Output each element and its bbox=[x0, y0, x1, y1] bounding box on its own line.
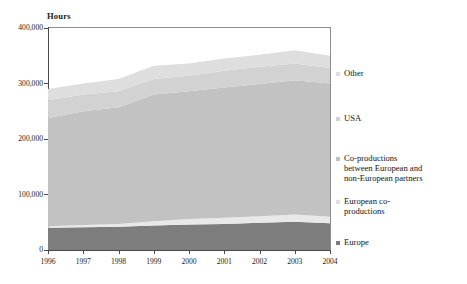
y-axis-label-300000: 300,000 bbox=[3, 80, 43, 88]
x-tick-2000 bbox=[189, 250, 190, 254]
caption-strip bbox=[0, 275, 467, 284]
x-tick-1998 bbox=[119, 250, 120, 254]
x-tick-2004 bbox=[330, 250, 331, 254]
stacked-area-chart: Hours 400,000 300,000 200,000 100,000 0 … bbox=[0, 0, 467, 284]
x-tick-2001 bbox=[224, 250, 225, 254]
legend-label-co-productions-european-non-european: Co-productions between European and non-… bbox=[344, 153, 423, 184]
legend-swatch-europe bbox=[336, 241, 340, 245]
legend-item-europe[interactable]: Europe bbox=[336, 237, 369, 247]
y-axis-labels: 400,000 300,000 200,000 100,000 0 bbox=[0, 0, 43, 284]
legend-swatch-co-productions-european-non-european bbox=[336, 157, 340, 161]
area-series-group bbox=[48, 28, 330, 250]
legend-item-usa[interactable]: USA bbox=[336, 113, 361, 123]
y-axis-label-0: 0 bbox=[3, 246, 43, 254]
x-tick-2003 bbox=[295, 250, 296, 254]
legend-item-co-productions-european-non-european[interactable]: Co-productions between European and non-… bbox=[336, 153, 423, 184]
legend-swatch-european-co-productions bbox=[336, 200, 340, 204]
chart-legend: Other USA Co-productions between Europea… bbox=[336, 0, 467, 284]
legend-label-european-co-productions: European co- productions bbox=[344, 196, 390, 216]
legend-swatch-usa bbox=[336, 117, 340, 121]
legend-swatch-other bbox=[336, 72, 340, 76]
plot-frame-right bbox=[330, 27, 331, 251]
legend-label-europe: Europe bbox=[344, 237, 369, 247]
y-axis-label-200000: 200,000 bbox=[3, 135, 43, 143]
y-axis-label-400000: 400,000 bbox=[3, 24, 43, 32]
legend-item-european-co-productions[interactable]: European co- productions bbox=[336, 196, 390, 216]
legend-label-other: Other bbox=[344, 68, 364, 78]
y-axis-title: Hours bbox=[47, 11, 71, 21]
x-tick-1997 bbox=[83, 250, 84, 254]
x-tick-2002 bbox=[260, 250, 261, 254]
x-tick-1999 bbox=[154, 250, 155, 254]
legend-item-other[interactable]: Other bbox=[336, 68, 364, 78]
x-tick-1996 bbox=[48, 250, 49, 254]
legend-label-usa: USA bbox=[344, 113, 361, 123]
y-axis-label-100000: 100,000 bbox=[3, 191, 43, 199]
